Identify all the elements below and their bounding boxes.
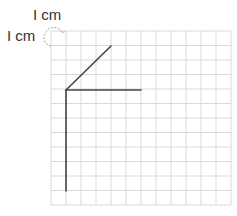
grid-lines: [51, 31, 231, 205]
diagonal-segment: [66, 46, 111, 90]
unit-cell-dashed-marker: [44, 27, 66, 46]
grid-diagram: [0, 0, 237, 216]
